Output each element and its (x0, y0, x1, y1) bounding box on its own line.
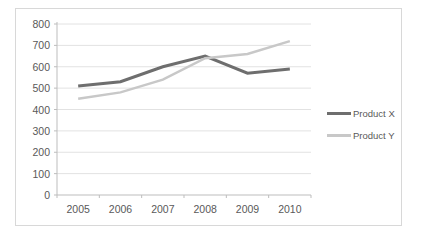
legend: Product XProduct Y (327, 106, 395, 150)
chart-canvas: 0100200300400500600700800 20052006200720… (0, 0, 423, 242)
legend-line-marker (327, 134, 351, 137)
legend-item-label: Product Y (353, 130, 395, 141)
y-tick-label: 100 (0, 168, 50, 180)
y-tick-label: 400 (0, 104, 50, 116)
y-tick-label: 500 (0, 82, 50, 94)
legend-item: Product X (327, 106, 395, 120)
y-tick-label: 300 (0, 125, 50, 137)
x-tick-label: 2005 (57, 203, 99, 215)
x-tick-label: 2006 (100, 203, 142, 215)
x-tick-label: 2010 (269, 203, 311, 215)
legend-item-label: Product X (353, 108, 395, 119)
legend-item: Product Y (327, 128, 395, 142)
y-tick-label: 0 (0, 189, 50, 201)
x-tick-label: 2008 (184, 203, 226, 215)
y-tick-label: 800 (0, 18, 50, 30)
x-tick-label: 2007 (142, 203, 184, 215)
legend-line-marker (327, 112, 351, 115)
series-line-product-y (78, 41, 290, 99)
series-line-product-x (78, 56, 290, 86)
x-tick-label: 2009 (227, 203, 269, 215)
y-tick-label: 700 (0, 39, 50, 51)
y-tick-label: 600 (0, 61, 50, 73)
y-tick-label: 200 (0, 146, 50, 158)
